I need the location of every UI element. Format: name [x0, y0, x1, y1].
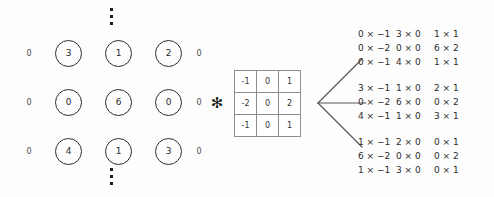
kernel-row: -1 0 1 [235, 71, 301, 93]
kernel-row: -2 0 2 [235, 93, 301, 115]
top-window-products: 0 × −1 3 × 0 1 × 1 0 × −2 0 × 0 6 × 2 0 … [358, 28, 472, 69]
pad-zero-left-row1: 0 [22, 47, 36, 61]
product-term: 0 × −2 [358, 42, 396, 55]
pad-zero-right-row3: 0 [192, 145, 206, 159]
fan-branch-up [318, 59, 362, 103]
product-term: 6 × 2 [434, 42, 472, 55]
kernel-cell: 2 [279, 93, 301, 115]
image-cell: 1 [105, 40, 132, 67]
product-row: 1 × −1 3 × 0 0 × 1 [358, 164, 472, 177]
kernel-cell: -1 [235, 71, 257, 93]
kernel-cell: 1 [279, 115, 301, 137]
pad-zero-left-row3: 0 [22, 145, 36, 159]
bottom-window-products: 1 × −1 2 × 0 0 × 1 6 × −2 0 × 0 0 × 2 1 … [358, 136, 472, 177]
product-term: 3 × 0 [396, 28, 434, 41]
product-row: 0 × −2 0 × 0 6 × 2 [358, 42, 472, 55]
middle-window-products: 3 × −1 1 × 0 2 × 1 0 × −2 6 × 0 0 × 2 4 … [358, 82, 472, 123]
product-term: 0 × 2 [434, 96, 472, 109]
sobel-kernel-matrix: -1 0 1 -2 0 2 -1 0 1 [234, 70, 301, 137]
convolution-operator-icon: ✻ [210, 96, 224, 111]
product-term: 3 × −1 [358, 82, 396, 95]
product-term: 1 × −1 [358, 164, 396, 177]
product-row: 1 × −1 2 × 0 0 × 1 [358, 136, 472, 149]
top-ellipsis-icon [106, 8, 116, 25]
product-term: 4 × −1 [358, 110, 396, 123]
product-term: 0 × 0 [396, 42, 434, 55]
product-term: 2 × 1 [434, 82, 472, 95]
product-row: 0 × −1 4 × 0 1 × 1 [358, 56, 472, 69]
product-term: 0 × 0 [396, 150, 434, 163]
product-term: 0 × −1 [358, 56, 396, 69]
product-term: 2 × 0 [396, 136, 434, 149]
product-row: 0 × −2 6 × 0 0 × 2 [358, 96, 472, 109]
kernel-cell: 0 [257, 115, 279, 137]
kernel-row: -1 0 1 [235, 115, 301, 137]
image-cell: 2 [155, 40, 182, 67]
product-term: 0 × 2 [434, 150, 472, 163]
kernel-cell: 1 [279, 71, 301, 93]
image-cell: 6 [105, 89, 132, 116]
fan-branch-down [318, 103, 362, 147]
product-row: 4 × −1 1 × 0 3 × 1 [358, 110, 472, 123]
pad-zero-left-row2: 0 [22, 96, 36, 110]
bottom-ellipsis-icon [106, 168, 116, 185]
product-term: 4 × 0 [396, 56, 434, 69]
product-row: 6 × −2 0 × 0 0 × 2 [358, 150, 472, 163]
image-cell: 0 [55, 89, 82, 116]
kernel-cell: 0 [257, 71, 279, 93]
product-row: 3 × −1 1 × 0 2 × 1 [358, 82, 472, 95]
image-cell: 4 [55, 138, 82, 165]
product-term: 1 × −1 [358, 136, 396, 149]
figure-canvas: 0 3 1 2 0 0 0 6 0 0 0 4 1 3 0 ✻ -1 0 1 -… [0, 0, 494, 197]
product-row: 0 × −1 3 × 0 1 × 1 [358, 28, 472, 41]
image-cell: 3 [55, 40, 82, 67]
pad-zero-right-row1: 0 [192, 47, 206, 61]
kernel-cell: -1 [235, 115, 257, 137]
image-cell: 3 [155, 138, 182, 165]
kernel-cell: 0 [257, 93, 279, 115]
product-term: 6 × −2 [358, 150, 396, 163]
product-term: 3 × 1 [434, 110, 472, 123]
product-term: 1 × 0 [396, 110, 434, 123]
product-term: 1 × 1 [434, 56, 472, 69]
product-term: 0 × −1 [358, 28, 396, 41]
image-cell: 1 [105, 138, 132, 165]
product-term: 0 × 1 [434, 136, 472, 149]
product-term: 0 × 1 [434, 164, 472, 177]
product-term: 6 × 0 [396, 96, 434, 109]
product-term: 0 × −2 [358, 96, 396, 109]
product-term: 1 × 1 [434, 28, 472, 41]
kernel-cell: -2 [235, 93, 257, 115]
product-term: 3 × 0 [396, 164, 434, 177]
pad-zero-right-row2: 0 [192, 96, 206, 110]
image-cell: 0 [155, 89, 182, 116]
product-term: 1 × 0 [396, 82, 434, 95]
